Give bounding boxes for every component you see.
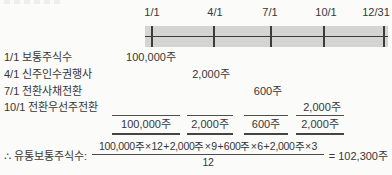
row-value-common-shares: 100,000주: [126, 51, 176, 64]
timeline-tick-oct1: [323, 26, 325, 47]
total-col-oct: 2,000주: [296, 115, 344, 135]
timeline-label-jan1: 1/1: [144, 6, 159, 19]
row-label-common-shares: 1/1 보통주식수: [4, 51, 72, 64]
formula-result: = 102,300주: [329, 147, 388, 163]
timeline-label-oct1: 10/1: [315, 6, 336, 19]
total-col-jul: 600주: [244, 115, 288, 135]
timeline-tick-jul1: [270, 26, 272, 47]
timeline-tick-dec31: [383, 26, 385, 47]
weighted-average-shares-figure: 1/1 4/1 7/1 10/1 12/31 1/1 보통주식수 100,000…: [0, 0, 392, 175]
timeline-tick-jan1: [151, 26, 153, 47]
formula-denominator: 12: [202, 156, 213, 169]
formula-label: ∴ 유통보통주식수:: [4, 147, 87, 163]
total-col-apr: 2,000주: [187, 115, 233, 135]
timeline-label-apr1: 4/1: [207, 6, 222, 19]
formula-fraction: 100,000주 × 12 + 2,000주 × 9 + 600주 × 6 + …: [92, 140, 324, 169]
row-value-convertible-bond-conversion: 600주: [254, 85, 282, 98]
row-label-preferred-conversion: 10/1 전환우선주전환: [4, 101, 98, 114]
row-label-convertible-bond-conversion: 7/1 전환사채전환: [4, 85, 82, 98]
row-label-warrant-exercise: 4/1 신주인수권행사: [4, 68, 92, 81]
weighted-average-formula: ∴ 유통보통주식수: 100,000주 × 12 + 2,000주 × 9 + …: [4, 140, 388, 169]
fraction-bar: [92, 154, 324, 155]
timeline-tick-apr1: [213, 26, 215, 47]
timeline-label-dec31: 12/31: [362, 6, 390, 19]
row-value-preferred-conversion: 2,000주: [303, 101, 341, 114]
cropped-text-artifact: [4, 0, 60, 4]
total-col-jan: 100,000주: [112, 115, 180, 135]
row-value-warrant-exercise: 2,000주: [192, 68, 230, 81]
timeline-bar: [145, 26, 388, 47]
formula-numerator: 100,000주 × 12 + 2,000주 × 9 + 600주 × 6 + …: [99, 140, 317, 153]
timeline-label-jul1: 7/1: [262, 6, 277, 19]
timeline-axis-line: [145, 36, 388, 38]
